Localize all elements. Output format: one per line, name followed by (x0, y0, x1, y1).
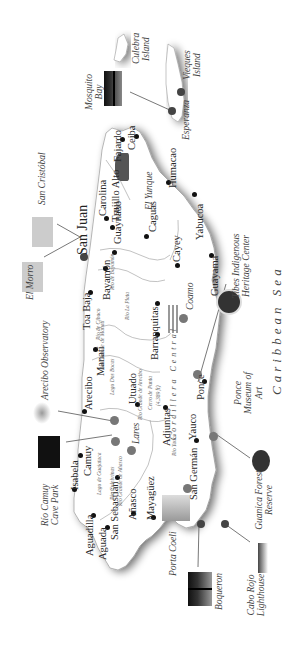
attraction-dot (111, 437, 120, 446)
town-label: Toa Baja (82, 293, 93, 330)
river-label: Río La Plata (125, 292, 131, 320)
town-label: Isabela (70, 460, 81, 490)
town-label: San Germán (189, 448, 200, 500)
town-label: Añasco (128, 489, 139, 521)
arecibo-observatory-icon (33, 402, 51, 424)
town-label: Lares (131, 423, 141, 444)
attraction-label: El Yunque (144, 172, 154, 210)
attraction-label: Porta Coeli (168, 531, 178, 576)
town-label: Yabucoa (195, 204, 206, 240)
town-label: Camuy (83, 446, 94, 476)
peak-elevation: (4,389 ft) (156, 386, 162, 406)
attraction-label: Río Camuy Cave Park (40, 480, 61, 530)
attraction-label: Arecibo Observatory (40, 320, 50, 400)
town-label: Humacao (168, 148, 179, 188)
attraction-label: Guanica Forest Reserve (254, 470, 275, 530)
attraction-dot (221, 520, 229, 528)
river-label: Río Grande de Arecibo (138, 369, 144, 420)
attraction-label: Mosquito Bay (84, 74, 105, 110)
town-label: Carolina (98, 180, 109, 216)
attraction-label: El Morro (25, 265, 35, 300)
mountain-range-label: Cordillera Central (170, 326, 178, 440)
town-label: Fajardo (113, 130, 124, 162)
puerto-rico-map: Fajardo Ceiba Carolina Trujillo Alto Gua… (0, 0, 293, 671)
cabo-rojo-lighthouse-icon (258, 543, 268, 573)
river-label: Lago Dos Bocas (110, 359, 116, 395)
town-dot (192, 192, 197, 197)
san-german-thumbnail (162, 495, 190, 521)
attraction-dot (127, 446, 136, 455)
town-label: Esperanza (181, 100, 191, 140)
rio-camuy-thumbnail (38, 436, 60, 468)
attraction-label: Ponce Museum of Art (233, 366, 264, 420)
guanica-tree-icon (252, 450, 270, 472)
town-label: Arecibo (84, 376, 95, 410)
town-label: Guaynabo (113, 201, 124, 244)
attraction-dot (177, 88, 185, 96)
town-label: Cayey (172, 235, 183, 262)
river-label: Río Grande de Añasco (118, 456, 124, 506)
river-label: Río de Bayamón (110, 254, 116, 290)
town-label: Ponce (196, 374, 207, 400)
attraction-label: Tibes Indigenous Heritage Center (231, 226, 252, 306)
river-label: Río Culebrinas (110, 467, 116, 500)
attraction-dot (179, 314, 188, 323)
town-label: Coamo (185, 283, 195, 310)
attraction-label: Boqueron (214, 573, 224, 610)
town-dot (175, 263, 180, 268)
island-label: Culebra Island (131, 34, 152, 64)
attraction-label: Cabo Rojo Lighthouse (246, 570, 267, 620)
attraction-label: San Cristóbal (37, 152, 47, 205)
town-label: Barranquitas (150, 306, 161, 360)
island-label: Vieques Island (182, 50, 203, 80)
attraction-dot (168, 107, 176, 115)
town-dot (155, 301, 160, 306)
town-dot (104, 216, 109, 221)
mosquito-bay-thumbnail (104, 71, 122, 106)
capital-label: San Juan (76, 205, 90, 255)
culebra-island-outline (114, 34, 128, 62)
town-label: Yauco (188, 414, 199, 440)
river-label: Lago de Guajataca (97, 453, 103, 495)
sea-label: Caribbean Sea (270, 265, 283, 395)
peak-label: Cerro de Punta (148, 376, 154, 410)
town-label: Ceiba (127, 126, 138, 151)
town-label: Aguadilla (85, 515, 96, 556)
town-label: Mayagüez (146, 476, 157, 520)
river-label: Río Grande de Manatí (100, 320, 106, 370)
attraction-dot (110, 416, 119, 425)
attraction-dot (197, 520, 205, 528)
san-cristobal-thumbnail (32, 217, 53, 247)
town-dot (144, 234, 149, 239)
town-label: Aguada (98, 527, 109, 560)
boqueron-thumbnail (188, 572, 212, 606)
town-label: Guayama (210, 256, 221, 296)
attraction-dot (209, 432, 218, 441)
